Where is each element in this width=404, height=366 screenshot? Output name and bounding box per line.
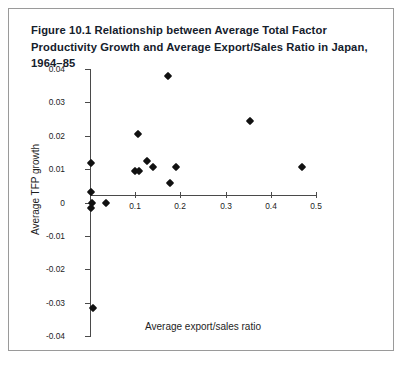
data-point xyxy=(298,163,306,171)
data-point xyxy=(172,163,180,171)
y-axis-tick-label: 0.03 xyxy=(31,98,65,107)
y-axis-tick xyxy=(85,336,91,337)
y-axis-title: Average TFP growth xyxy=(30,120,41,260)
x-axis-tick xyxy=(226,192,227,198)
data-point xyxy=(102,198,110,206)
x-axis-tick-label: 0.4 xyxy=(256,202,286,211)
x-axis-tick-label: 0.1 xyxy=(120,202,150,211)
data-point xyxy=(163,72,171,80)
y-axis-tick xyxy=(85,136,91,137)
x-axis-tick xyxy=(135,192,136,198)
x-axis-title: Average export/sales ratio xyxy=(88,321,318,332)
y-axis-tick-label: -0.03 xyxy=(31,299,65,308)
data-point xyxy=(149,163,157,171)
scatter-plot: 0.040.030.020.010-0.01-0.02-0.03-0.04 0.… xyxy=(9,9,394,351)
y-axis-tick xyxy=(85,269,91,270)
y-axis-tick xyxy=(85,236,91,237)
x-axis-tick-label: 0.5 xyxy=(301,202,331,211)
y-axis-tick-label: -0.04 xyxy=(31,332,65,341)
x-axis-line xyxy=(90,195,316,196)
x-axis-tick xyxy=(180,192,181,198)
data-point xyxy=(88,198,96,206)
y-axis-tick xyxy=(85,102,91,103)
x-axis-tick-label: 0.2 xyxy=(165,202,195,211)
x-axis-tick-label: 0.3 xyxy=(211,202,241,211)
y-axis-tick-label: 0.04 xyxy=(31,65,65,74)
data-point xyxy=(246,116,254,124)
y-axis-tick xyxy=(85,169,91,170)
data-point xyxy=(87,159,95,167)
y-axis-tick xyxy=(85,69,91,70)
figure-frame: Figure 10.1 Relationship between Average… xyxy=(8,8,394,351)
data-point xyxy=(166,179,174,187)
y-axis-tick-label: -0.02 xyxy=(31,265,65,274)
x-axis-tick xyxy=(271,192,272,198)
x-axis-tick xyxy=(316,192,317,198)
y-axis-tick xyxy=(85,303,91,304)
data-point xyxy=(134,130,142,138)
